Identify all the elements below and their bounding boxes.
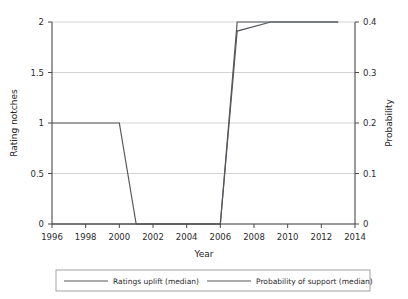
x-tick-label-2008: 2008 (243, 232, 265, 242)
x-tick-label-2002: 2002 (142, 232, 164, 242)
y2-tick-label-0.3: 0.3 (363, 68, 377, 78)
y-tick-label-1.5: 1.5 (30, 68, 44, 78)
y2-tick-label-0.4: 0.4 (363, 17, 377, 27)
x-tick-label-2010: 2010 (277, 232, 299, 242)
x-tick-label-2004: 2004 (176, 232, 198, 242)
x-tick-label-2012: 2012 (311, 232, 333, 242)
legend-label-probability-of-support: Probability of support (median) (256, 277, 373, 286)
y-tick-label-0.5: 0.5 (30, 169, 44, 179)
y-tick-label-1: 1 (39, 118, 44, 128)
chart-figure: 00.511.52 00.10.20.30.4 1996199820002002… (0, 0, 408, 299)
y-tick-label-0: 0 (39, 219, 44, 229)
y2-tick-label-0.1: 0.1 (363, 169, 377, 179)
y2-axis-title: Probability (384, 99, 394, 147)
x-tick-label-2014: 2014 (344, 232, 366, 242)
y2-tick-label-0.2: 0.2 (363, 118, 377, 128)
legend-label-ratings-uplift: Ratings uplift (median) (113, 277, 199, 286)
x-tick-label-1998: 1998 (75, 232, 97, 242)
x-tick-label-2000: 2000 (109, 232, 131, 242)
chart-legend: Ratings uplift (median) Probability of s… (56, 270, 373, 291)
y-axis-title: Rating notches (9, 89, 19, 157)
y2-tick-label-0: 0 (363, 219, 368, 229)
x-tick-label-2006: 2006 (210, 232, 232, 242)
y-tick-label-2: 2 (39, 17, 44, 27)
x-axis-title: Year (193, 249, 213, 259)
x-tick-label-1996: 1996 (41, 232, 63, 242)
